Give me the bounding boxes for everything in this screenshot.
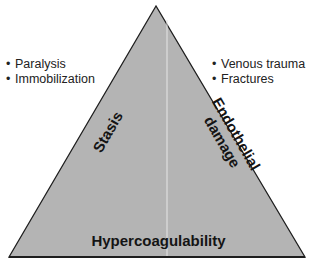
list-item-text: Fractures xyxy=(221,72,274,86)
list-item-text: Immobilization xyxy=(15,72,95,86)
hypercoagulability-base-label: Hypercoagulability xyxy=(0,232,311,249)
list-item-text: Paralysis xyxy=(15,57,66,71)
triangle-fill xyxy=(9,6,305,257)
list-item: •Immobilization xyxy=(6,72,95,87)
bullet-icon: • xyxy=(6,57,15,72)
list-item: •Venous trauma xyxy=(212,57,305,72)
bullet-icon: • xyxy=(212,57,221,72)
list-item-text: Venous trauma xyxy=(221,57,305,71)
list-item: •Fractures xyxy=(212,72,305,87)
triangle-shape xyxy=(0,0,311,263)
bullet-icon: • xyxy=(6,72,15,87)
list-item: •Paralysis xyxy=(6,57,95,72)
virchow-triad-diagram: •Paralysis •Immobilization •Venous traum… xyxy=(0,0,311,263)
bullet-icon: • xyxy=(212,72,221,87)
stasis-causes-list: •Paralysis •Immobilization xyxy=(6,57,95,87)
endothelial-causes-list: •Venous trauma •Fractures xyxy=(212,57,305,87)
